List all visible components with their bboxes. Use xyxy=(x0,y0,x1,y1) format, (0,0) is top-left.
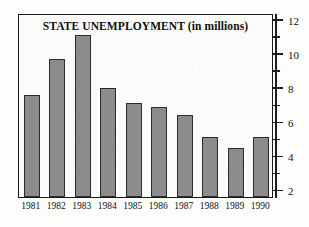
bar-1981 xyxy=(24,95,40,197)
y-tick-label-8: 8 xyxy=(288,83,294,94)
x-axis-label-1981: 1981 xyxy=(21,201,40,211)
bar-1983 xyxy=(75,35,91,197)
bar-1989 xyxy=(228,148,244,197)
bar-1985 xyxy=(126,103,142,197)
x-axis-label-1990: 1990 xyxy=(251,201,270,211)
x-axis-label-1986: 1986 xyxy=(149,201,168,211)
bar-1988 xyxy=(202,137,218,197)
y-tick-minor-7 xyxy=(272,105,280,107)
y-tick-minor-3 xyxy=(272,173,280,175)
x-axis-label-1982: 1982 xyxy=(47,201,66,211)
y-tick-label-2: 2 xyxy=(288,186,294,197)
y-tick-label-10: 10 xyxy=(288,49,299,60)
y-tick-minor-11 xyxy=(272,36,280,38)
y-axis-line xyxy=(275,14,277,198)
bar-1987 xyxy=(177,115,193,197)
bar-1986 xyxy=(151,107,167,197)
bar-1982 xyxy=(49,59,65,197)
y-tick-major-10 xyxy=(272,53,283,55)
y-axis: 24681012 xyxy=(275,14,309,198)
bar-1990 xyxy=(253,137,269,197)
y-tick-major-2 xyxy=(272,190,283,192)
x-axis-label-1988: 1988 xyxy=(200,201,219,211)
plot-area: STATE UNEMPLOYMENT (in millions) xyxy=(18,14,273,198)
y-tick-label-12: 12 xyxy=(288,15,299,26)
y-tick-minor-5 xyxy=(272,139,280,141)
y-tick-major-8 xyxy=(272,87,283,89)
y-tick-major-4 xyxy=(272,156,283,158)
x-axis-label-1983: 1983 xyxy=(72,201,91,211)
x-axis-label-1984: 1984 xyxy=(98,201,117,211)
unemployment-bar-chart: STATE UNEMPLOYMENT (in millions) 2468101… xyxy=(0,0,309,227)
y-tick-label-6: 6 xyxy=(288,118,294,129)
y-tick-label-4: 4 xyxy=(288,152,294,163)
y-tick-major-12 xyxy=(272,19,283,21)
bar-series xyxy=(19,15,272,197)
bar-1984 xyxy=(100,88,116,197)
x-axis-labels: 1981198219831984198519861987198819891990 xyxy=(18,201,273,219)
x-axis-label-1987: 1987 xyxy=(174,201,193,211)
x-axis-label-1989: 1989 xyxy=(225,201,244,211)
y-tick-major-6 xyxy=(272,122,283,124)
x-axis-label-1985: 1985 xyxy=(123,201,142,211)
y-tick-minor-9 xyxy=(272,70,280,72)
